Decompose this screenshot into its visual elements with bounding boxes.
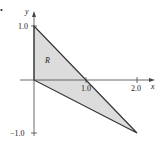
diagram: • 1.0 2.0 1.0 −1.0 x y R [0,0,161,141]
region-r [34,26,137,133]
y-axis-arrow-icon [32,11,36,17]
y-tick-label-neg1: −1.0 [10,129,25,138]
region-label: R [44,56,50,65]
x-tick-label-2: 2.0 [131,84,141,93]
x-axis-label: x [150,82,155,91]
y-axis-label: y [24,7,29,16]
y-tick-label-1: 1.0 [18,22,28,31]
bullet-marker: • [0,6,3,15]
x-tick-label-1: 1.0 [81,84,91,93]
